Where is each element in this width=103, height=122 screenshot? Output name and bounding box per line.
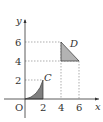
- y-axis-arrow-icon: [24, 19, 27, 23]
- region-c-label: C: [44, 72, 52, 83]
- y-tick-4: 4: [15, 56, 21, 67]
- x-tick-6: 6: [76, 102, 82, 113]
- x-tick-2: 2: [40, 102, 46, 113]
- y-axis-label: y: [15, 15, 22, 26]
- x-tick-4: 4: [58, 102, 64, 113]
- region-d-label: D: [69, 38, 78, 49]
- y-tick-6: 6: [15, 37, 21, 48]
- y-tick-2: 2: [15, 75, 21, 86]
- region-c: [25, 80, 43, 99]
- x-axis-label: x: [95, 101, 101, 112]
- coordinate-diagram: y x O 2 4 6 2 4 6 C D: [0, 0, 103, 122]
- origin-label: O: [15, 102, 23, 113]
- guide-lines: [25, 42, 79, 99]
